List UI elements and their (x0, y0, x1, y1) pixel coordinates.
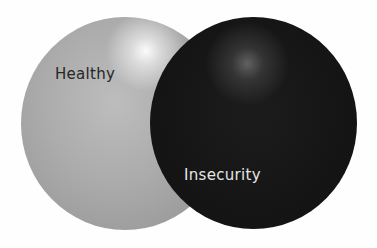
healthy-label: Healthy (55, 65, 115, 83)
insecurity-circle (150, 17, 357, 229)
insecurity-label: Insecurity (184, 166, 261, 184)
